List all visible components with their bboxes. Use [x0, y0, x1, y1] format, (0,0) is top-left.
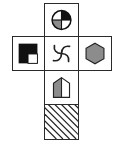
- half-house-icon: [45, 71, 78, 104]
- swirl-icon: [45, 37, 78, 70]
- face-center: Four curved arcs forming a swirl: [44, 36, 79, 71]
- face-left: Black square with white square in bottom…: [12, 36, 45, 71]
- face-bottom: Diagonal line hatching: [44, 104, 79, 140]
- face-right: Gray filled hexagon: [78, 36, 112, 71]
- square-corner-icon: [13, 37, 44, 70]
- diagonal-hatch-icon: [45, 105, 78, 139]
- face-lower: House pentagon with left half gray, righ…: [44, 70, 79, 105]
- face-top: Circle split into quadrants: top-right b…: [44, 3, 79, 37]
- quartered-circle-icon: [45, 4, 78, 36]
- hexagon-icon: [79, 37, 111, 70]
